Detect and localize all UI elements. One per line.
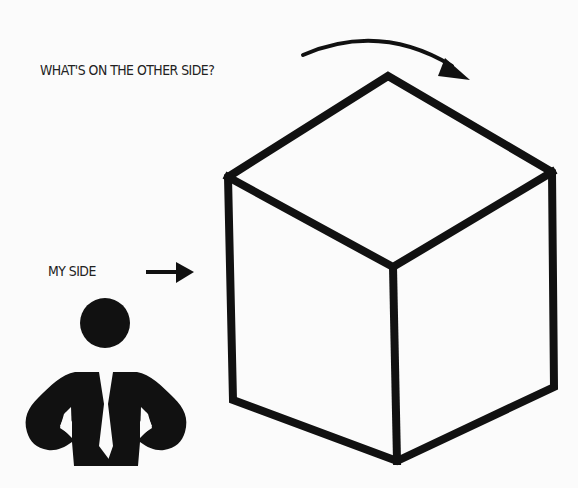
- person-head: [80, 298, 130, 348]
- my-side-label: MY SIDE: [48, 263, 96, 279]
- person-icon: [26, 298, 187, 466]
- cube-icon: [228, 76, 554, 461]
- straight-arrow-icon: [146, 262, 194, 283]
- other-side-label: WHAT'S ON THE OTHER SIDE?: [40, 62, 214, 78]
- diagram-canvas: WHAT'S ON THE OTHER SIDE? MY SIDE: [0, 0, 578, 488]
